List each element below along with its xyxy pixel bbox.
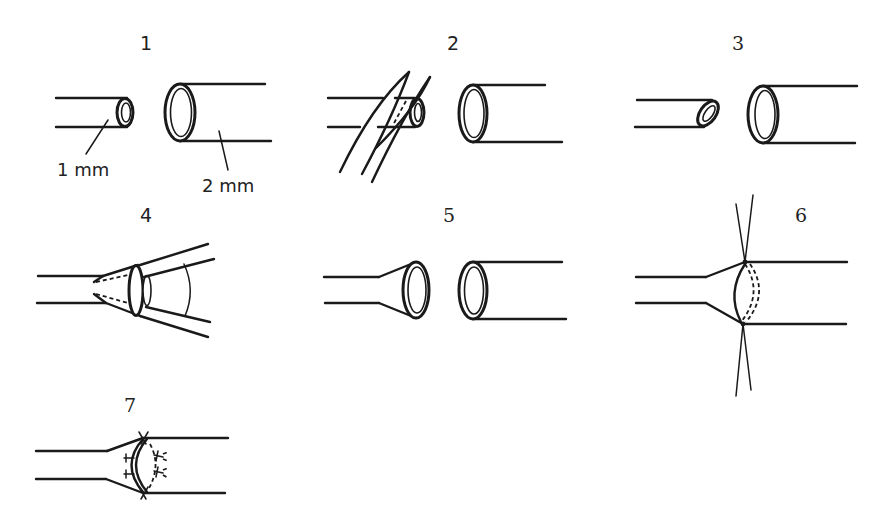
step-number-4: 4 [140, 204, 152, 226]
step-number-7: 7 [124, 394, 136, 416]
step-number-6: 6 [795, 204, 807, 226]
oblique-small-vessel [635, 97, 723, 129]
panel-6: 6 [636, 195, 847, 396]
anastomosis-diagram: 1 1 mm 2 mm 2 [0, 0, 885, 524]
dilation-angle-arc [184, 264, 190, 316]
panel-3: 3 [635, 32, 857, 143]
panel-7: 7 [36, 394, 228, 499]
annotation-2mm: 2 mm [202, 175, 254, 196]
panel-2: 2 [328, 32, 562, 182]
joined-vessels [636, 260, 847, 327]
panel-1: 1 1 mm 2 mm [56, 32, 271, 196]
panel-5: 5 [324, 204, 566, 319]
callout-line-2mm [219, 131, 228, 170]
small-vessel [328, 98, 424, 127]
callout-line-1mm [86, 120, 108, 154]
large-vessel [459, 262, 566, 319]
step-number-3: 3 [732, 32, 744, 54]
step-number-1: 1 [140, 32, 152, 54]
flared-small-vessel [324, 262, 429, 318]
step-number-2: 2 [447, 32, 459, 54]
panel-4: 4 [37, 204, 214, 337]
stay-sutures [736, 195, 753, 396]
large-vessel [748, 86, 857, 143]
large-vessel [165, 84, 271, 141]
step-number-5: 5 [443, 204, 455, 226]
annotation-1mm: 1 mm [57, 159, 109, 180]
sutured-vessels [36, 438, 228, 493]
small-vessel [56, 98, 133, 127]
small-vessel [37, 265, 151, 316]
large-vessel [459, 85, 562, 142]
